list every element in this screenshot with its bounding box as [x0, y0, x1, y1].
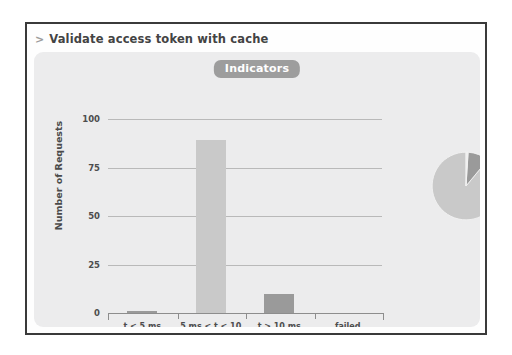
y-tick-label: 0 — [70, 308, 100, 318]
gridline — [108, 119, 382, 120]
gridline — [108, 216, 382, 217]
x-axis-category-label: t < 5 ms — [108, 322, 177, 327]
y-tick-label: 75 — [70, 163, 100, 173]
bar[interactable] — [196, 140, 226, 313]
x-axis-category-label: failed — [314, 322, 383, 327]
indicators-panel: > Validate access token with cache Indic… — [25, 22, 487, 335]
pie-chart — [430, 150, 480, 222]
chart-card: Indicators Number of Requests 0255075100… — [34, 52, 480, 327]
bar-chart: Number of Requests 0255075100 t < 5 ms5 … — [34, 52, 480, 327]
x-axis-category-label: 5 ms < t < 10 ms — [177, 322, 246, 327]
page-title: Validate access token with cache — [49, 32, 268, 46]
gridline — [108, 168, 382, 169]
y-tick-label: 25 — [70, 260, 100, 270]
x-axis-frame — [108, 313, 384, 320]
bar[interactable] — [264, 294, 294, 313]
x-axis-tick — [315, 314, 316, 319]
x-axis-tick — [246, 314, 247, 319]
panel-header: > Validate access token with cache — [35, 29, 268, 49]
y-tick-label: 50 — [70, 211, 100, 221]
expand-marker-icon[interactable]: > — [35, 34, 44, 45]
pie-svg — [430, 150, 480, 222]
x-axis-tick — [178, 314, 179, 319]
gridline — [108, 265, 382, 266]
x-axis-category-label: t > 10 ms — [245, 322, 314, 327]
y-axis-title: Number of Requests — [53, 116, 64, 236]
y-tick-label: 100 — [70, 114, 100, 124]
